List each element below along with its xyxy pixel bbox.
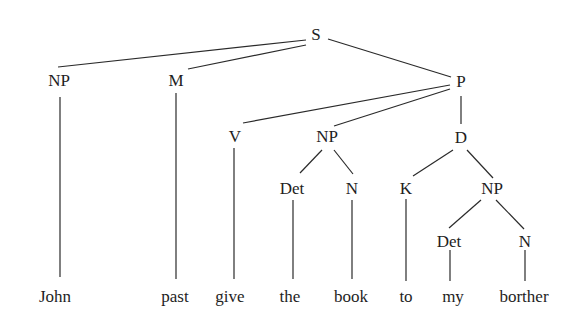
node-np-object: NP — [316, 127, 338, 146]
edge-s-to-p — [328, 39, 451, 77]
edge-p-to-np2 — [334, 89, 450, 126]
leaf-borther: borther — [499, 287, 548, 306]
node-m: M — [168, 71, 183, 90]
edge-s-to-m — [188, 45, 306, 69]
node-np-dative: NP — [481, 179, 503, 198]
node-det-object: Det — [280, 179, 305, 198]
leaf-john: John — [39, 287, 72, 306]
edge-np3-to-det2 — [449, 200, 481, 228]
node-n-dative: N — [519, 232, 531, 251]
edge-d-to-k — [413, 150, 453, 176]
tree-nodes: S NP M P V NP D Det N K NP Det N — [48, 25, 531, 251]
leaf-past: past — [161, 287, 189, 306]
syntax-tree-diagram: S NP M P V NP D Det N K NP Det N John pa… — [0, 0, 588, 334]
edge-d-to-np3 — [467, 150, 493, 178]
node-np-subject: NP — [48, 71, 70, 90]
leaf-book: book — [334, 287, 369, 306]
node-d: D — [455, 128, 467, 147]
edge-p-to-v — [243, 85, 450, 123]
node-k: K — [400, 179, 413, 198]
edge-s-to-np1 — [58, 40, 306, 67]
node-n-object: N — [346, 179, 358, 198]
node-det-dative: Det — [437, 232, 462, 251]
leaf-the: the — [280, 287, 301, 306]
tree-leaves: John past give the book to my borther — [39, 287, 549, 306]
leaf-give: give — [215, 287, 244, 306]
edge-np2-to-n1 — [334, 150, 353, 174]
node-s: S — [311, 25, 320, 44]
edge-np3-to-n2 — [496, 200, 524, 229]
node-v: V — [229, 127, 242, 146]
edge-np2-to-det1 — [300, 150, 322, 173]
leaf-to: to — [399, 287, 412, 306]
leaf-my: my — [442, 287, 464, 306]
node-p: P — [456, 72, 465, 91]
